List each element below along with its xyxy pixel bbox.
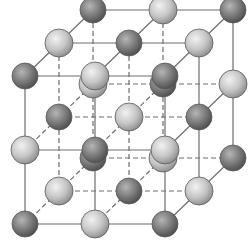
light-atom (185, 177, 213, 205)
dark-atom (220, 0, 246, 23)
dark-atom (82, 137, 108, 163)
lattice-svg (0, 0, 250, 252)
dark-atom (12, 63, 38, 89)
light-atom (81, 62, 109, 90)
dark-atom (116, 178, 142, 204)
lattice-diagram (0, 0, 250, 252)
dark-atom (152, 211, 178, 237)
dark-atom (80, 0, 106, 23)
dark-atom (12, 211, 38, 237)
light-atom (45, 177, 73, 205)
light-atom (149, 0, 177, 24)
dark-atom (152, 63, 178, 89)
dark-atom (220, 145, 246, 171)
light-atom (219, 70, 247, 98)
dark-atom (116, 30, 142, 56)
light-atom (185, 29, 213, 57)
light-atom (11, 136, 39, 164)
light-atom (151, 136, 179, 164)
lattice-atoms (11, 0, 247, 238)
dark-atom (186, 104, 212, 130)
light-atom (81, 210, 109, 238)
light-atom (115, 103, 143, 131)
dark-atom (46, 104, 72, 130)
light-atom (45, 29, 73, 57)
